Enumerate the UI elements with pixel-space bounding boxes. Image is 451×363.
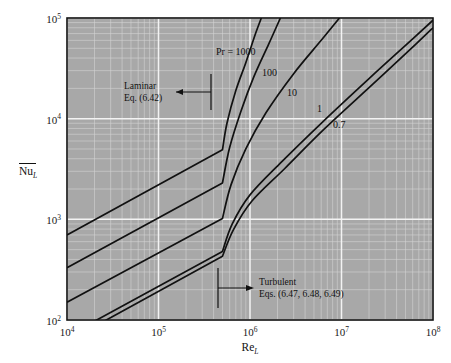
curve-label-pr-07: 0.7 (333, 119, 346, 130)
curve-label-pr-1: 1 (317, 103, 322, 114)
curve-label-pr-1000: Pr = 1000 (216, 46, 256, 57)
x-tick-0: 104 (60, 325, 75, 339)
x-tick-3: 107 (334, 325, 349, 339)
nusselt-reynolds-chart: 104 105 106 107 108 105 104 10 (0, 0, 451, 363)
x-tick-1: 105 (151, 325, 166, 339)
annotation-laminar-line1: Laminar (124, 81, 157, 91)
y-tick-2: 103 (46, 213, 61, 227)
y-tick-0: 105 (46, 12, 61, 26)
x-axis-ticks: 104 105 106 107 108 (60, 325, 441, 339)
annotation-laminar-line2: Eq. (6.42) (124, 93, 162, 104)
annotation-turbulent-line2: Eqs. (6.47, 6.48, 6.49) (259, 289, 344, 300)
y-tick-1: 104 (46, 112, 61, 126)
y-tick-3: 102 (46, 314, 61, 328)
curve-label-pr-10: 10 (287, 87, 297, 98)
x-axis-title: ReL (242, 341, 259, 356)
figure-container: 104 105 106 107 108 105 104 10 (0, 0, 451, 363)
x-tick-2: 106 (243, 325, 258, 339)
y-axis-ticks: 105 104 103 102 (46, 12, 61, 328)
y-axis-title-text: NuL (19, 165, 37, 180)
annotation-turbulent-line1: Turbulent (259, 277, 296, 287)
y-axis-title: NuL (19, 164, 37, 181)
curve-label-pr-100: 100 (262, 67, 277, 78)
x-tick-4: 108 (426, 325, 441, 339)
